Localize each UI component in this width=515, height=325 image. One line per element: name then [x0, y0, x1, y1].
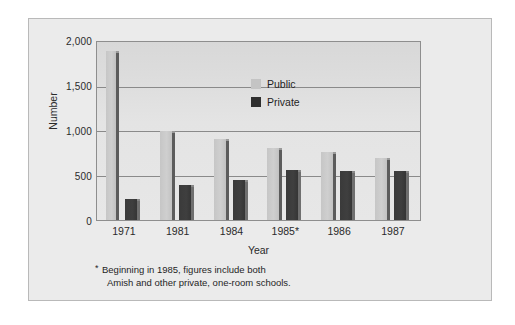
bar-private-1971 — [125, 199, 140, 220]
bars-layer — [97, 42, 420, 220]
bar-public-1986 — [321, 152, 336, 220]
y-axis-title: Number — [47, 81, 59, 141]
bar-face — [267, 148, 279, 220]
bar-face — [233, 180, 245, 220]
bar-face — [179, 185, 191, 220]
x-tick-1971: 1971 — [112, 225, 135, 237]
bar-face — [125, 199, 137, 220]
bar-group-1987 — [366, 42, 420, 220]
bar-face — [394, 171, 406, 220]
bar-face — [214, 139, 226, 220]
bar-private-1986 — [340, 171, 355, 220]
y-tick-500: 500 — [30, 171, 92, 182]
bar-public-1981 — [160, 131, 175, 220]
bar-side — [352, 173, 355, 220]
bar-public-1984 — [214, 139, 229, 220]
bar-private-1981 — [179, 185, 194, 220]
bar-face — [375, 158, 387, 220]
legend-label-public: Public — [267, 78, 296, 90]
x-tick-1981: 1981 — [166, 225, 189, 237]
bar-chart: 2,000 1,500 1,000 500 0 Number — [29, 19, 491, 300]
legend-swatch-private-icon — [251, 97, 261, 107]
bar-private-1985 — [286, 170, 301, 220]
x-axis-title: Year — [97, 244, 420, 256]
y-tick-1500: 1,500 — [30, 81, 92, 92]
y-tick-2000: 2,000 — [30, 36, 92, 47]
bar-group-1984 — [205, 42, 259, 220]
legend-label-private: Private — [267, 96, 300, 108]
x-tick-1985: 1985* — [272, 225, 299, 237]
bar-side — [172, 133, 175, 220]
x-axis-ticks: 1971 1981 1984 1985* 1986 1987 — [97, 225, 420, 241]
legend-item-private: Private — [251, 94, 300, 109]
y-tick-1000: 1,000 — [30, 126, 92, 137]
bar-side — [279, 150, 282, 220]
legend-swatch-public-icon — [251, 79, 261, 89]
bar-face — [286, 170, 298, 220]
x-tick-1986: 1986 — [327, 225, 350, 237]
bar-side — [137, 201, 140, 220]
bar-side — [333, 154, 336, 220]
chart-footnote: * Beginning in 1985, figures include bot… — [95, 263, 425, 289]
bar-face — [106, 51, 116, 220]
bar-side — [245, 182, 248, 220]
bar-group-1986 — [312, 42, 366, 220]
y-axis-ticks: 2,000 1,500 1,000 500 0 — [29, 41, 92, 221]
bar-private-1987 — [394, 171, 409, 220]
bar-side — [387, 160, 390, 220]
footnote-line-1: Beginning in 1985, figures include both — [102, 263, 425, 276]
bar-group-1981 — [151, 42, 205, 220]
footnote-marker: * — [95, 262, 99, 275]
bar-side — [298, 172, 301, 220]
bar-side — [191, 187, 194, 220]
figure-card: 2,000 1,500 1,000 500 0 Number — [28, 18, 492, 301]
bar-public-1971 — [106, 51, 119, 220]
bar-side — [116, 53, 119, 220]
bar-private-1984 — [233, 180, 248, 220]
footnote-line-2: Amish and other private, one-room school… — [107, 276, 425, 289]
bar-group-1985 — [258, 42, 312, 220]
bar-public-1987 — [375, 158, 390, 220]
bar-face — [160, 131, 172, 220]
bar-group-1971 — [97, 42, 151, 220]
bar-face — [321, 152, 333, 220]
legend-item-public: Public — [251, 76, 300, 91]
bar-side — [226, 141, 229, 220]
x-tick-1987: 1987 — [381, 225, 404, 237]
bar-side — [406, 173, 409, 220]
x-tick-1984: 1984 — [220, 225, 243, 237]
bar-face — [340, 171, 352, 220]
bar-public-1985 — [267, 148, 282, 220]
y-tick-0: 0 — [30, 216, 92, 227]
chart-legend: Public Private — [251, 76, 300, 112]
